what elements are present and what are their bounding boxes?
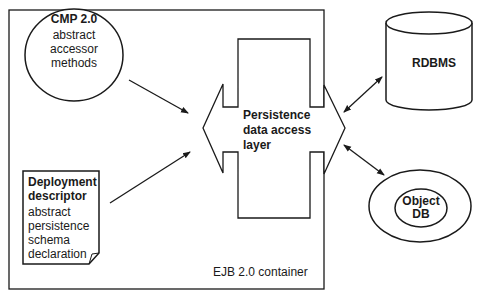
- descriptor-line: declaration: [28, 247, 97, 261]
- ejb-container-label: EJB 2.0 container: [213, 265, 308, 279]
- persistence-line: Persistence: [243, 108, 311, 123]
- descriptor-line: abstract: [28, 205, 97, 219]
- cmp-label: CMP 2.0 abstract accessor methods: [44, 12, 104, 70]
- cmp-line: abstract: [44, 28, 104, 42]
- arrow-descriptor-to-layer: [110, 152, 190, 203]
- descriptor-title: descriptor: [28, 189, 97, 203]
- cmp-line: accessor: [44, 42, 104, 56]
- persistence-line: data access: [243, 123, 311, 138]
- persistence-line: layer: [243, 138, 311, 153]
- rdbms-cylinder-top: [386, 12, 472, 34]
- descriptor-title: Deployment: [28, 175, 97, 189]
- cmp-title: CMP 2.0: [44, 12, 104, 26]
- deployment-descriptor-label: Deployment descriptor abstract persisten…: [28, 175, 97, 261]
- objectdb-line: DB: [399, 208, 443, 221]
- arrow-layer-rdbms: [344, 77, 382, 112]
- arrow-layer-objectdb: [344, 145, 384, 175]
- rdbms-label: RDBMS: [412, 56, 456, 70]
- descriptor-line: persistence: [28, 219, 97, 233]
- arrow-cmp-to-layer: [129, 80, 188, 113]
- persistence-layer-label: Persistence data access layer: [243, 108, 311, 153]
- descriptor-line: schema: [28, 233, 97, 247]
- cmp-line: methods: [44, 56, 104, 70]
- objectdb-label: Object DB: [399, 195, 443, 221]
